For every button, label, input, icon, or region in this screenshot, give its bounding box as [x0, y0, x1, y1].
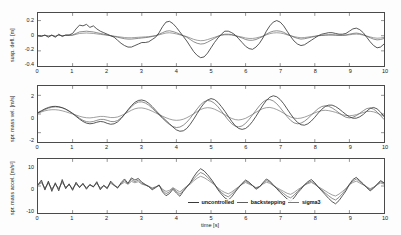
legend: uncontrolled backstepping sigma3: [187, 199, 321, 205]
panel2-ytick-2: -2: [18, 137, 34, 143]
panel1-xtick-10: 10: [380, 68, 390, 74]
panel1-ytick-2: -0.2: [18, 46, 34, 52]
panel1-xtick-5: 5: [206, 68, 216, 74]
panel1-ylabel: susp. defl. [m]: [9, 28, 15, 62]
panel2-plot-area: [37, 85, 385, 143]
panel1-xtick-6: 6: [241, 68, 251, 74]
panel2-xtick-8: 8: [310, 144, 320, 150]
panel2-xtick-9: 9: [345, 144, 355, 150]
panel3-plot-area: [37, 158, 385, 214]
panel3-xtick-8: 8: [310, 215, 320, 221]
panel2-xtick-5: 5: [206, 144, 216, 150]
panel1-xtick-9: 9: [345, 68, 355, 74]
panel3-ytick-1: 0: [16, 186, 34, 192]
panel1-xtick-1: 1: [67, 68, 77, 74]
panel3-xtick-7: 7: [276, 215, 286, 221]
legend-item-uncontrolled: uncontrolled: [188, 199, 234, 205]
panel3-xtick-9: 9: [345, 215, 355, 221]
panel3-xtick-2: 2: [102, 215, 112, 221]
legend-label-uncontrolled: uncontrolled: [202, 199, 235, 205]
panel2-xtick-2: 2: [102, 144, 112, 150]
figure-container: susp. defl. [m] 0.2 0 -0.2 -0.4 0 1 2 3 …: [0, 0, 401, 235]
panel2-xtick-6: 6: [241, 144, 251, 150]
panel1-plot-area: [37, 12, 385, 67]
panel2-ylabel: spr. mass vel. [m/s]: [9, 96, 15, 142]
panel1-ytick-0: 0.2: [18, 17, 34, 23]
legend-item-sigma3: sigma3: [288, 199, 320, 205]
panel1-xtick-7: 7: [276, 68, 286, 74]
panel3-ylabel: spr. mass accel. [m/s²]: [9, 161, 15, 215]
panel3-xtick-10: 10: [380, 215, 390, 221]
panel2-xtick-4: 4: [171, 144, 181, 150]
panel2-xtick-0: 0: [32, 144, 42, 150]
panel2-xtick-7: 7: [276, 144, 286, 150]
legend-label-backstepping: backstepping: [251, 199, 286, 205]
legend-label-sigma3: sigma3: [302, 199, 321, 205]
panel1-xtick-3: 3: [136, 68, 146, 74]
panel1-xtick-0: 0: [32, 68, 42, 74]
panel3-xtick-5: 5: [206, 215, 216, 221]
legend-item-backstepping: backstepping: [237, 199, 285, 205]
legend-swatch-backstepping: [237, 202, 248, 203]
panel1-ytick-3: -0.4: [18, 61, 34, 67]
xaxis-label: time [s]: [180, 222, 240, 228]
panel2-xtick-3: 3: [136, 144, 146, 150]
legend-swatch-sigma3: [288, 202, 299, 203]
panel2-ytick-1: 0: [18, 115, 34, 121]
panel3-ytick-0: 10: [16, 164, 34, 170]
panel1-xtick-2: 2: [102, 68, 112, 74]
panel3-xtick-3: 3: [136, 215, 146, 221]
panel3-xtick-4: 4: [171, 215, 181, 221]
panel1-xtick-4: 4: [171, 68, 181, 74]
panel2-xtick-10: 10: [380, 144, 390, 150]
panel1-xtick-8: 8: [310, 68, 320, 74]
panel3-ytick-2: -10: [16, 208, 34, 214]
legend-swatch-uncontrolled: [188, 202, 199, 203]
panel2-ytick-0: 2: [18, 93, 34, 99]
panel3-xtick-0: 0: [32, 215, 42, 221]
panel1-ytick-1: 0: [18, 32, 34, 38]
panel2-xtick-1: 1: [67, 144, 77, 150]
panel3-xtick-6: 6: [241, 215, 251, 221]
panel3-xtick-1: 1: [67, 215, 77, 221]
